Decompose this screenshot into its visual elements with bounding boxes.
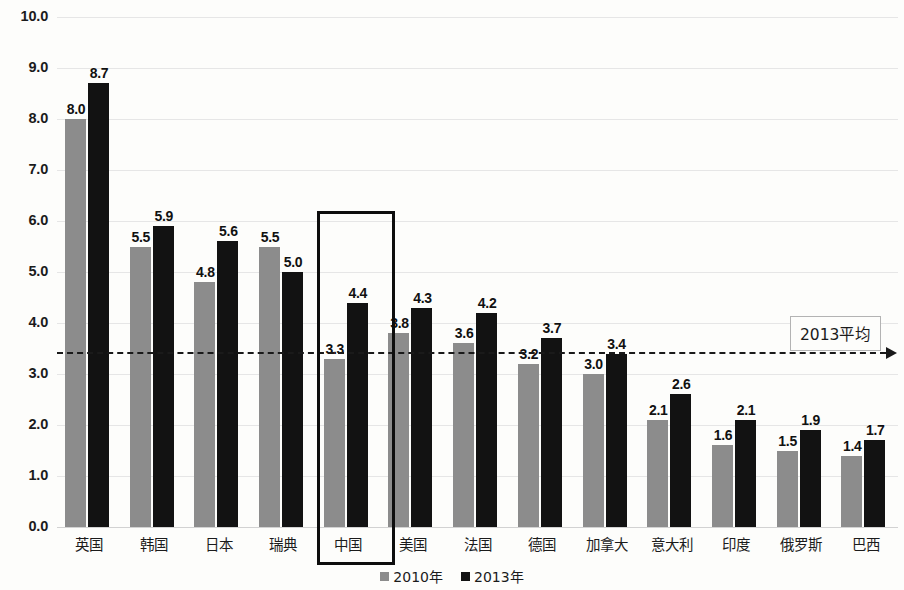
bar-value-label: 5.9 (144, 208, 184, 224)
bar-value-label: 1.7 (855, 422, 895, 438)
bar-group: 1.62.1 (704, 17, 769, 527)
x-axis-tick-label: 瑞典 (246, 533, 320, 554)
x-axis-tick-label: 英国 (52, 533, 126, 554)
x-axis-tick-label: 印度 (699, 533, 773, 554)
bar-y2013 (217, 241, 238, 527)
x-axis-tick-label: 俄罗斯 (764, 533, 838, 554)
y-axis-tick-label: 5.0 (0, 263, 48, 279)
bar-y2010 (65, 119, 86, 527)
bar-group: 8.08.7 (57, 17, 122, 527)
x-axis-tick-label: 美国 (376, 533, 450, 554)
bar-y2013 (541, 338, 562, 527)
bar-y2013 (347, 303, 368, 527)
x-axis-tick-label: 巴西 (829, 533, 903, 554)
bar-y2010 (194, 282, 215, 527)
bar-group: 3.64.2 (445, 17, 510, 527)
y-axis-tick-label: 3.0 (0, 365, 48, 381)
legend-item[interactable]: 2010年 (380, 566, 443, 586)
bar-y2010 (259, 247, 280, 528)
bar-y2010 (712, 445, 733, 527)
y-axis-tick-label: 8.0 (0, 110, 48, 126)
legend-item[interactable]: 2013年 (461, 566, 524, 586)
bar-value-label: 3.4 (597, 336, 637, 352)
bar-y2013 (88, 83, 109, 527)
average-line-arrow-icon (886, 347, 897, 359)
bar-y2010 (388, 333, 409, 527)
bar-y2010 (841, 456, 862, 527)
y-axis-tick-label: 10.0 (0, 8, 48, 24)
legend-label: 2013年 (474, 566, 524, 586)
bar-group: 3.23.7 (510, 17, 575, 527)
bar-y2013 (476, 313, 497, 527)
average-line (57, 352, 886, 354)
bar-value-label: 4.2 (467, 295, 507, 311)
bar-y2010 (453, 343, 474, 527)
bar-y2013 (153, 226, 174, 527)
legend-swatch-icon (461, 572, 470, 581)
bar-value-label: 5.5 (250, 229, 290, 245)
x-axis-tick-label: 意大利 (635, 533, 709, 554)
bar-y2010 (583, 374, 604, 527)
y-axis-tick-label: 2.0 (0, 416, 48, 432)
y-axis-tick-label: 1.0 (0, 467, 48, 483)
y-axis-tick-label: 7.0 (0, 161, 48, 177)
bar-value-label: 2.1 (726, 402, 766, 418)
bar-group: 3.34.4 (316, 17, 381, 527)
bar-value-label: 2.6 (661, 376, 701, 392)
bar-value-label: 8.7 (79, 65, 119, 81)
bar-group: 3.03.4 (575, 17, 640, 527)
bar-group: 1.41.7 (833, 17, 898, 527)
bar-y2013 (735, 420, 756, 527)
y-axis-tick-label: 6.0 (0, 212, 48, 228)
bar-value-label: 3.7 (532, 320, 572, 336)
x-axis-tick-label: 法国 (441, 533, 515, 554)
bar-y2013 (282, 272, 303, 527)
bar-y2013 (864, 440, 885, 527)
x-axis-tick-label: 加拿大 (570, 533, 644, 554)
bar-y2013 (800, 430, 821, 527)
bar-value-label: 4.4 (338, 285, 378, 301)
bar-y2010 (777, 451, 798, 528)
bar-group: 5.55.0 (251, 17, 316, 527)
bar-group: 2.12.6 (639, 17, 704, 527)
y-axis-tick-label: 9.0 (0, 59, 48, 75)
legend: 2010年2013年 (0, 566, 904, 586)
bar-value-label: 5.6 (208, 223, 248, 239)
bar-y2010 (518, 364, 539, 527)
bar-group: 3.84.3 (380, 17, 445, 527)
bar-group: 1.51.9 (769, 17, 834, 527)
y-axis-tick-label: 4.0 (0, 314, 48, 330)
x-axis-tick-label: 中国 (311, 533, 385, 554)
bar-y2010 (324, 359, 345, 527)
bar-y2010 (647, 420, 668, 527)
x-axis-tick-label: 韩国 (117, 533, 191, 554)
bar-value-label: 1.9 (791, 412, 831, 428)
legend-swatch-icon (380, 572, 389, 581)
chart-container: 10.09.08.07.06.05.04.03.02.01.00.0 8.08.… (0, 0, 904, 590)
bar-y2013 (606, 354, 627, 527)
bar-value-label: 5.0 (273, 254, 313, 270)
bar-y2013 (411, 308, 432, 527)
plot-area: 8.08.75.55.94.85.65.55.03.34.43.84.33.64… (57, 17, 898, 527)
bar-value-label: 4.3 (402, 290, 442, 306)
y-axis-tick-label: 0.0 (0, 518, 48, 534)
bar-y2013 (670, 394, 691, 527)
bar-group: 5.55.9 (122, 17, 187, 527)
x-axis-tick-label: 日本 (182, 533, 256, 554)
bar-y2010 (130, 247, 151, 528)
legend-label: 2010年 (393, 566, 443, 586)
bar-group: 4.85.6 (186, 17, 251, 527)
average-callout: 2013平均 (790, 316, 881, 351)
gridline (57, 527, 898, 528)
x-axis-tick-label: 德国 (505, 533, 579, 554)
